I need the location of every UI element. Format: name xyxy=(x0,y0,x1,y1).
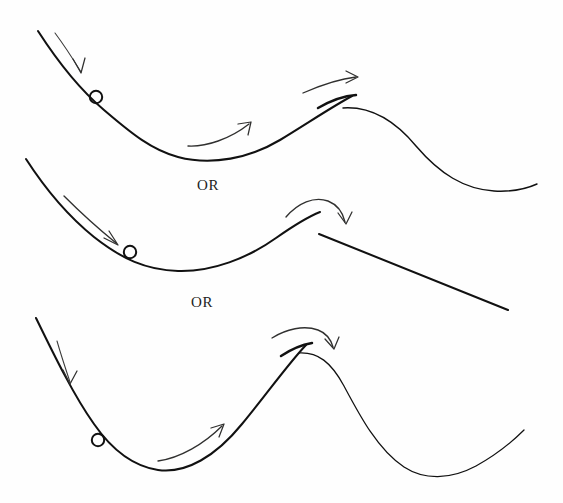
panel-1-ball-icon xyxy=(90,91,102,103)
panel-1-arrow-down-left-icon xyxy=(55,33,85,73)
arrow-shaft xyxy=(57,341,70,382)
hand-drawn-figure: OR OR xyxy=(0,0,563,503)
panel-3-ball-icon xyxy=(92,434,104,446)
sketch-canvas xyxy=(0,0,563,503)
panel-3-valley-up-to-crest xyxy=(36,318,306,471)
or-connector-label-2: OR xyxy=(191,294,213,311)
panel-1 xyxy=(38,31,537,191)
arrow-shaft xyxy=(188,124,249,146)
panel-2-ball-icon xyxy=(124,246,136,258)
panel-1-arrow-over-peak-icon xyxy=(303,71,358,93)
panel-2-arrow-down-left-icon xyxy=(64,196,118,245)
arrow-shaft xyxy=(286,199,345,222)
panel-2-straight-drop xyxy=(319,234,508,310)
or-connector-label-1: OR xyxy=(197,177,219,194)
panel-3-arrow-up-middle-icon xyxy=(158,424,224,461)
arrow-head xyxy=(73,58,85,73)
panel-1-slope-down-and-up-to-peak xyxy=(38,31,352,161)
panel-1-arrow-up-middle-icon xyxy=(188,122,251,146)
arrow-shaft xyxy=(158,426,222,461)
panel-3-arrow-down-left-icon xyxy=(57,341,77,384)
panel-3 xyxy=(36,318,524,477)
panel-2-valley-up-to-sharp-peak xyxy=(26,159,320,271)
arrow-shaft xyxy=(64,196,116,243)
panel-3-crest-cap-heavy xyxy=(281,343,312,356)
arrow-shaft xyxy=(303,77,356,93)
panel-3-descending-right-limb xyxy=(299,353,524,477)
panel-2 xyxy=(26,159,508,310)
arrow-head xyxy=(338,212,352,224)
panel-1-descending-right-limb xyxy=(343,108,537,191)
